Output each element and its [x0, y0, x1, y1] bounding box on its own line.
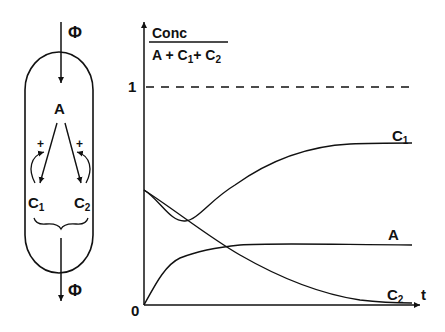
feedback-arrow-c2-icon	[77, 152, 90, 183]
brace-icon	[34, 218, 88, 229]
curve-label-a: A	[388, 226, 399, 243]
species-a-label: A	[54, 100, 65, 117]
curve-c2	[144, 190, 412, 303]
species-c1-label: C1	[28, 194, 45, 213]
curve-c1	[144, 143, 412, 221]
curve-label-c2: C2	[387, 286, 404, 305]
concentration-chart: Conc A + C1+ C2 1 0 C1 A C2 t	[128, 22, 426, 319]
inflow-label: Φ	[68, 23, 82, 42]
vessel-outline	[25, 52, 93, 273]
y-tick-0: 0	[131, 302, 139, 319]
y-axis-label-denominator: A + C1+ C2	[152, 47, 221, 65]
feedback-arrow-c1-icon	[31, 152, 44, 183]
outflow-label: Φ	[68, 281, 82, 300]
diagram-canvas: Φ A + + C1 C2 Φ Conc A + C1+ C2 1 0	[0, 0, 445, 332]
curve-label-c1: C1	[392, 127, 409, 146]
feedback-sign-c1: +	[37, 137, 44, 151]
y-tick-1: 1	[128, 78, 136, 95]
x-axis-label: t	[421, 286, 426, 303]
reactor-vessel: Φ A + + C1 C2 Φ	[25, 22, 93, 301]
species-c2-label: C2	[74, 194, 91, 213]
feedback-sign-c2: +	[76, 137, 83, 151]
y-axis-label-numerator: Conc	[152, 25, 187, 41]
